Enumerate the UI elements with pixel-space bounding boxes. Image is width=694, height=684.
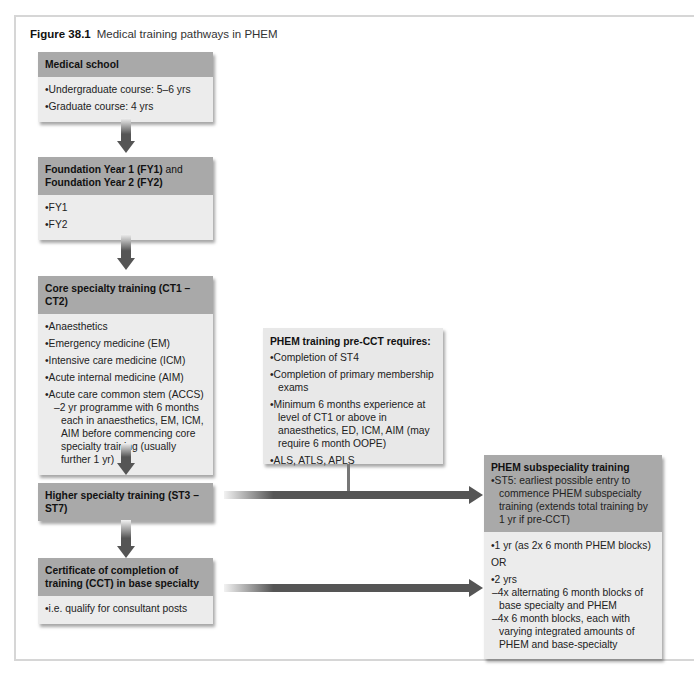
figure-caption: Medical training pathways in PHEM xyxy=(97,28,278,40)
list-item: Undergraduate course: 5–6 yrs xyxy=(45,83,206,96)
list-item: Intensive care medicine (ICM) xyxy=(45,354,206,367)
list-item: Graduate course: 4 yrs xyxy=(45,100,206,113)
foundation-header: Foundation Year 1 (FY1) and Foundation Y… xyxy=(38,157,213,195)
pre-cct-title: PHEM training pre-CCT requires: xyxy=(270,335,436,348)
down-arrow-icon xyxy=(121,118,131,153)
accs-label: Acute care common stem (ACCS) xyxy=(49,389,204,400)
core-specialty-header: Core specialty training (CT1 – CT2) xyxy=(38,276,213,314)
phem-subspeciality-box: PHEM subspeciality training ST5: earlies… xyxy=(484,455,662,659)
higher-specialty-header: Higher specialty training (ST3 – ST7) xyxy=(38,483,213,521)
option-1-yr: 1 yr (as 2x 6 month PHEM blocks) xyxy=(491,539,655,552)
figure-title: Figure 38.1Medical training pathways in … xyxy=(30,28,278,40)
higher-specialty-box: Higher specialty training (ST3 – ST7) xyxy=(38,483,213,521)
down-arrow-icon xyxy=(121,520,131,558)
list-item: FY1 xyxy=(45,201,206,214)
list-item: Completion of ST4 xyxy=(270,351,436,364)
right-arrow-icon xyxy=(224,584,483,592)
figure-label: Figure 38.1 xyxy=(30,28,91,40)
list-item: FY2 xyxy=(45,218,206,231)
st5-entry-item: ST5: earliest possible entry to commence… xyxy=(491,474,655,526)
down-arrow-icon xyxy=(121,234,131,270)
right-arrow-icon xyxy=(224,491,483,499)
list-item: i.e. qualify for consultant posts xyxy=(45,602,206,615)
list-item: Anaesthetics xyxy=(45,320,206,333)
option-2-sub-item: 4x 6 month blocks, each with varying int… xyxy=(491,612,655,651)
connector-line xyxy=(347,464,350,494)
or-label: OR xyxy=(491,556,655,569)
foundation-header-line2: Foundation Year 2 (FY2) xyxy=(45,177,163,188)
option-2-sub-item: 4x alternating 6 month blocks of base sp… xyxy=(491,586,655,612)
option-2-yrs: 2 yrs xyxy=(491,573,655,586)
medical-school-box: Medical school Undergraduate course: 5–6… xyxy=(38,52,213,122)
foundation-box: Foundation Year 1 (FY1) and Foundation Y… xyxy=(38,157,213,240)
cct-header: Certificate of completion of training (C… xyxy=(38,558,213,596)
list-item: Minimum 6 months experience at level of … xyxy=(270,398,436,450)
list-item: Acute internal medicine (AIM) xyxy=(45,371,206,384)
list-item: Emergency medicine (EM) xyxy=(45,337,206,350)
medical-school-header: Medical school xyxy=(38,52,213,77)
foundation-header-and: and xyxy=(163,164,183,175)
phem-subspeciality-title: PHEM subspeciality training xyxy=(491,461,655,474)
list-item: Completion of primary membership exams xyxy=(270,368,436,394)
cct-box: Certificate of completion of training (C… xyxy=(38,558,213,624)
pre-cct-requirements-box: PHEM training pre-CCT requires: Completi… xyxy=(263,328,443,464)
down-arrow-icon xyxy=(121,443,131,475)
foundation-header-line1: Foundation Year 1 (FY1) xyxy=(45,164,163,175)
phem-subspeciality-header: PHEM subspeciality training ST5: earlies… xyxy=(484,455,662,532)
list-item: ALS, ATLS, APLS xyxy=(270,454,436,467)
